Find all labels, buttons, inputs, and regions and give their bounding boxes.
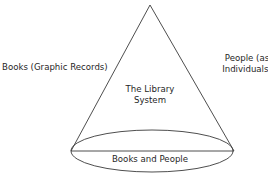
library-system-label: The Library System (126, 84, 175, 105)
cone-right-edge (150, 5, 234, 151)
cone-left-edge (71, 5, 150, 151)
books-graphic-records-label: Books (Graphic Records) (2, 62, 108, 73)
people-label-line1: People (as (222, 53, 268, 64)
people-label-line2: Individuals) (222, 64, 268, 75)
library-system-line2: System (126, 95, 175, 106)
people-individuals-label: People (as Individuals) (222, 53, 268, 74)
library-system-line1: The Library (126, 84, 175, 95)
books-and-people-label: Books and People (112, 154, 188, 165)
